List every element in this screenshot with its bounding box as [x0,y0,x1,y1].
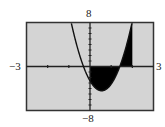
calculator-graph [0,0,165,127]
